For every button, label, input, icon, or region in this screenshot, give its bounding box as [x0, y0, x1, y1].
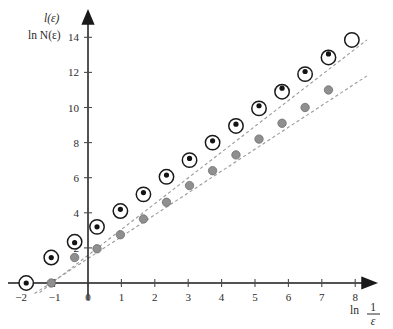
x-tick-label: −2 — [15, 291, 27, 303]
x-tick-label: −1 — [49, 291, 61, 303]
data-point — [233, 122, 238, 127]
y-tick-label: 10 — [68, 102, 80, 114]
y-tick-label: 6 — [74, 172, 80, 184]
data-point — [118, 207, 123, 212]
scatter-chart: −2−1012345678 2468101214 l(ε) ln N(ε) ln… — [0, 0, 393, 329]
data-point — [326, 51, 331, 56]
data-point — [187, 156, 192, 161]
data-point — [116, 231, 124, 239]
data-point — [345, 33, 359, 47]
x-tick-label: 0 — [85, 291, 91, 303]
x-tick-label: 4 — [219, 291, 225, 303]
y-tick-label: 12 — [68, 66, 79, 78]
data-point — [278, 119, 286, 127]
data-point — [279, 86, 284, 91]
data-point — [70, 253, 78, 261]
y-axis-arrowhead — [83, 11, 94, 24]
x-axis-label-prefix: ln — [350, 304, 359, 316]
data-point — [210, 138, 215, 143]
data-point — [94, 224, 99, 229]
x-axis-arrowhead — [362, 278, 376, 289]
data-point — [164, 172, 169, 177]
x-tick-label: 2 — [152, 291, 158, 303]
data-point — [139, 215, 147, 223]
x-tick-label: 3 — [185, 291, 191, 303]
data-point — [301, 103, 309, 111]
series-gray-circles — [22, 86, 333, 287]
chart-canvas: −2−1012345678 2468101214 l(ε) ln N(ε) ln… — [0, 0, 393, 329]
data-point — [256, 103, 261, 108]
data-point — [141, 190, 146, 195]
x-axis-label-numerator: 1 — [370, 301, 376, 313]
x-tick-label: 1 — [119, 291, 125, 303]
y-tick-label: 14 — [68, 31, 80, 43]
x-tick-label: 7 — [319, 291, 325, 303]
data-point — [255, 135, 263, 143]
x-axis-label-denominator: ε — [371, 315, 376, 327]
data-point — [47, 279, 55, 287]
data-point — [324, 86, 332, 94]
x-tick-label: 8 — [352, 291, 358, 303]
data-point — [232, 151, 240, 159]
data-point — [303, 69, 308, 74]
data-point — [24, 280, 29, 285]
y-axis-label-secondary: ln N(ε) — [28, 29, 61, 42]
data-point — [185, 181, 193, 189]
y-tick-label: 4 — [74, 207, 80, 219]
lower-fit-line — [35, 76, 367, 294]
data-point — [72, 240, 77, 245]
trendlines-group — [35, 40, 367, 294]
data-point — [49, 255, 54, 260]
x-tick-label: 5 — [252, 291, 258, 303]
data-point — [93, 245, 101, 253]
x-tick-label: 6 — [286, 291, 292, 303]
data-point — [162, 198, 170, 206]
y-tick-label: 8 — [74, 137, 80, 149]
data-point — [208, 166, 216, 174]
y-axis-label-primary: l(ε) — [44, 12, 60, 25]
